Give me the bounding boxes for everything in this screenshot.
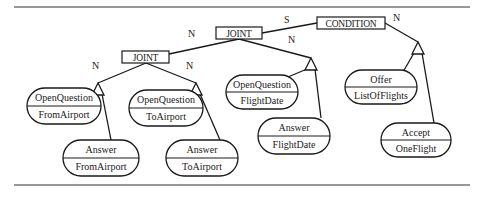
act-type: Answer xyxy=(85,144,117,155)
edge-label-nucleus: N xyxy=(393,12,400,23)
edge-label-nucleus: N xyxy=(186,60,193,71)
act-type: Answer xyxy=(186,144,218,155)
triangle-icon xyxy=(412,42,424,54)
relation-node-joint-left: JOINT xyxy=(122,51,169,63)
act-topic: FromAirport xyxy=(75,161,126,172)
act-node-openquestion-fromairport: OpenQuestion FromAirport xyxy=(27,88,101,124)
edge-label-satellite: S xyxy=(284,14,290,25)
act-type: OpenQuestion xyxy=(137,94,195,105)
edge-label-nucleus: N xyxy=(188,28,195,39)
act-type: Offer xyxy=(370,74,392,85)
edge-label-nucleus: N xyxy=(92,60,99,71)
act-topic: FromAirport xyxy=(38,109,89,120)
act-node-openquestion-toairport: OpenQuestion ToAirport xyxy=(129,90,203,126)
act-type: OpenQuestion xyxy=(35,92,93,103)
act-type: Accept xyxy=(402,127,431,138)
act-node-answer-fromairport: Answer FromAirport xyxy=(63,140,139,176)
act-node-offer-listofflights: Offer ListOfFlights xyxy=(345,70,417,104)
act-node-openquestion-flightdate: OpenQuestion FlightDate xyxy=(226,75,298,109)
act-type: OpenQuestion xyxy=(233,79,291,90)
act-topic: ListOfFlights xyxy=(354,90,408,101)
act-node-accept-oneflight: Accept OneFlight xyxy=(381,123,451,157)
relation-label: JOINT xyxy=(133,53,159,63)
relation-label: JOINT xyxy=(226,29,252,39)
relation-label: CONDITION xyxy=(326,19,377,29)
edge-label-nucleus: N xyxy=(288,34,295,45)
diagram-canvas: CONDITION JOINT JOINT S N N N N N OpenQu… xyxy=(0,0,483,197)
act-topic: OneFlight xyxy=(396,143,437,154)
act-node-answer-flightdate: Answer FlightDate xyxy=(258,118,330,154)
triangle-icon xyxy=(305,58,317,70)
act-node-answer-toairport: Answer ToAirport xyxy=(166,140,238,176)
act-topic: FlightDate xyxy=(273,139,316,150)
act-topic: ToAirport xyxy=(182,161,222,172)
relation-node-condition: CONDITION xyxy=(317,17,385,29)
act-type: Answer xyxy=(278,122,310,133)
act-topic: ToAirport xyxy=(146,111,186,122)
act-topic: FlightDate xyxy=(241,95,284,106)
relation-node-joint-top: JOINT xyxy=(216,27,262,39)
